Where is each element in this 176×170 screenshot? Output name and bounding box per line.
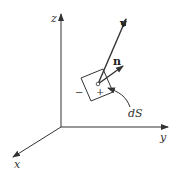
minus-side-label: − — [75, 87, 83, 98]
diagram-canvas: z y x v n − + dS — [0, 0, 176, 170]
plus-side-label: + — [96, 86, 104, 97]
x-axis — [13, 127, 61, 157]
n-label: n — [113, 55, 121, 68]
z-axis-label: z — [50, 12, 57, 25]
surface-element-diagram: z y x v n − + dS — [0, 0, 176, 170]
ds-label: dS — [128, 107, 143, 120]
v-label: v — [119, 17, 127, 30]
y-axis-label: y — [159, 131, 167, 144]
x-axis-label: x — [14, 158, 21, 170]
ds-pointer — [108, 88, 130, 107]
